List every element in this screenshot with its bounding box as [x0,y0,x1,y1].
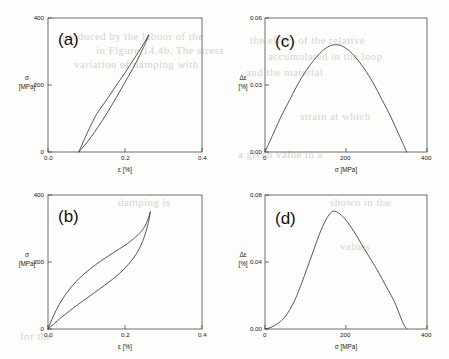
panel-b-xlabel: ε [%] [118,343,132,351]
panel-b-ylabel-unit: [MPa] [19,260,36,268]
panel-c-ytick-2: 0.06 [250,14,263,21]
panel-a-xtick-1: 0.2 [121,154,130,161]
panel-c-xtick-1: 200 [340,154,351,161]
panel-c-xtick-0: 0 [263,154,267,161]
panel-b-hysteresis-loop [48,212,150,329]
panel-d-ylabel-unit: [%] [238,260,247,268]
panel-d-xtick-2: 400 [421,331,432,338]
panel-c-ytick-1: 0.03 [250,81,263,88]
panel-d-ylabel-symbol: Δε [239,251,246,258]
panel-d-ytick-2: 0.08 [250,191,263,198]
panel-c: (c) 0 200 400 0.00 0.03 0.06 Δε [%] σ [M… [225,0,449,180]
figure-container: produced by the labour of thein Figure 1… [0,0,449,359]
panel-a-hysteresis-loop [79,35,149,152]
panel-b-xtick-2: 0.4 [198,331,207,338]
panel-a-xlabel: ε [%] [118,166,132,174]
panel-d-xtick-1: 200 [340,331,351,338]
panel-c-xtick-2: 400 [421,154,432,161]
panel-d-xlabel: σ [MPa] [335,343,358,351]
panel-c-plot: (c) 0 200 400 0.00 0.03 0.06 Δε [%] σ [M… [225,0,449,180]
panel-c-ylabel-unit: [%] [238,83,247,91]
panel-d-plot: (d) 0 200 400 0.00 0.04 0.08 Δε [%] σ [M… [225,180,449,359]
panel-a: (a) 0.0 0.2 0.4 0 200 400 σ [MPa] ε [%] [0,0,225,180]
panel-a-plot: (a) 0.0 0.2 0.4 0 200 400 σ [MPa] ε [%] [0,0,225,180]
panel-d-xtick-0: 0 [263,331,267,338]
panel-a-ylabel-symbol: σ [25,74,29,81]
panel-c-ylabel-symbol: Δε [239,74,246,81]
panel-b-xtick-1: 0.2 [121,331,130,338]
panel-b: (b) 0.0 0.2 0.4 0 200 400 σ [MPa] ε [%] [0,180,225,359]
panel-b-ylabel-symbol: σ [25,251,29,258]
panel-d: (d) 0 200 400 0.00 0.04 0.08 Δε [%] σ [M… [225,180,449,359]
panel-c-letter: (c) [275,32,295,51]
panel-a-ytick-0: 0 [41,148,45,155]
panel-b-ytick-2: 400 [34,191,45,198]
panel-d-ytick-0: 0.00 [250,325,263,332]
panel-c-ytick-0: 0.00 [250,148,263,155]
panel-b-plot: (b) 0.0 0.2 0.4 0 200 400 σ [MPa] ε [%] [0,180,225,359]
panel-c-damping-curve [265,45,407,152]
panel-a-ylabel-unit: [MPa] [19,83,36,91]
panel-a-xtick-0: 0.0 [44,154,53,161]
panel-d-ytick-1: 0.04 [250,258,263,265]
panel-a-letter: (a) [58,30,79,49]
panel-a-ytick-2: 400 [34,14,45,21]
panel-b-letter: (b) [58,207,79,226]
panel-b-xtick-0: 0.0 [44,331,53,338]
panel-d-letter: (d) [275,209,296,228]
panel-c-xlabel: σ [MPa] [335,166,358,174]
panel-b-ytick-0: 0 [41,325,45,332]
panel-d-damping-curve [265,211,407,329]
panel-a-xtick-2: 0.4 [198,154,207,161]
